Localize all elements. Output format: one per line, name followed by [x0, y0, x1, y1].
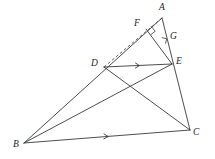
vertex-label-E: E [176, 57, 182, 67]
geometry-figure: A B C D E F G [0, 0, 215, 159]
vertex-label-F: F [134, 19, 140, 29]
vertex-label-G: G [170, 32, 177, 42]
segment-DA-dashed [104, 18, 162, 67]
vertex-label-D: D [91, 59, 98, 69]
segment-DC [104, 67, 190, 130]
vertex-label-B: B [13, 140, 19, 150]
right-angle-at-G [162, 38, 167, 44]
vertex-label-A: A [159, 3, 165, 13]
vertex-label-C: C [193, 128, 199, 138]
geometry-canvas [0, 0, 215, 159]
side-BC [24, 130, 190, 143]
segment-EF [146, 29, 172, 64]
